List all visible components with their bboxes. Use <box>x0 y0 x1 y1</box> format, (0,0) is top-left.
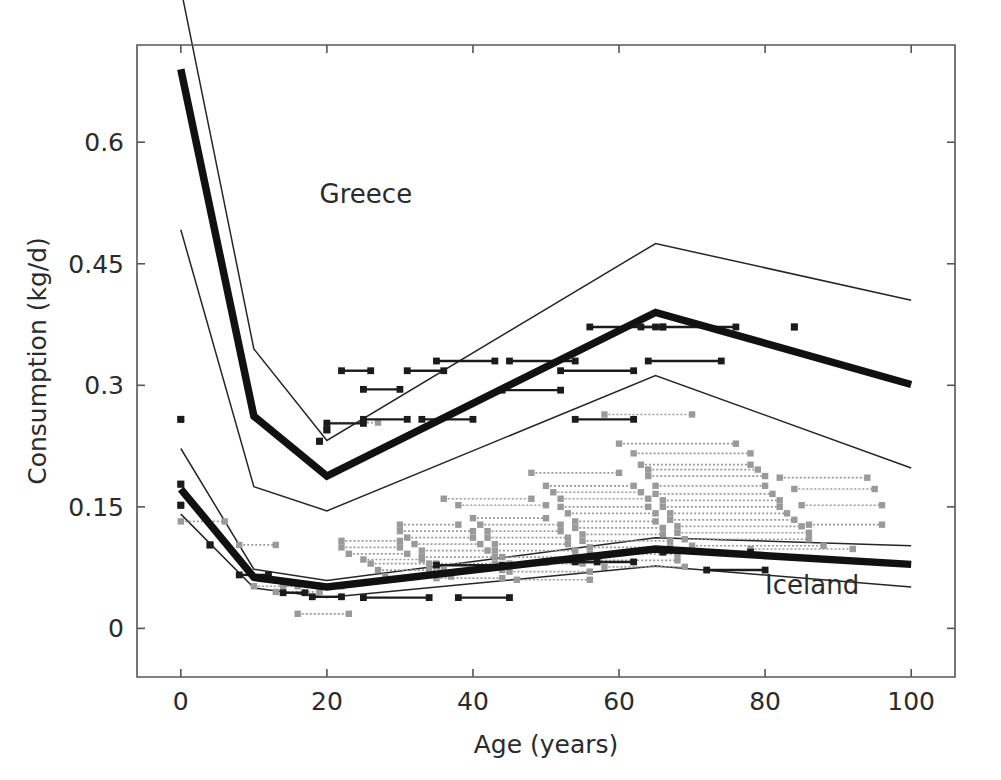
iceland-observation-marker <box>426 560 432 566</box>
iceland-observation-marker <box>667 510 673 516</box>
greece-observation-marker <box>360 594 367 601</box>
greece-observation-marker <box>426 594 433 601</box>
greece-observation-marker <box>572 358 579 365</box>
iceland-observation-marker <box>455 502 461 508</box>
greece-observation-marker <box>397 386 404 393</box>
greece-observation-marker <box>645 358 652 365</box>
greece-observation-marker <box>302 589 309 596</box>
greece-observation-marker <box>455 594 462 601</box>
iceland-observation-marker <box>492 547 498 553</box>
iceland-observation-marker <box>733 440 739 446</box>
iceland-observation-marker <box>806 536 812 542</box>
iceland-observation-marker <box>514 577 520 583</box>
iceland-observation-marker <box>455 521 461 527</box>
iceland-observation-marker <box>572 525 578 531</box>
iceland-observation-marker <box>652 483 658 489</box>
greece-observation-marker <box>367 367 374 374</box>
iceland-observation-marker <box>557 504 563 510</box>
iceland-observation-marker <box>411 541 417 547</box>
iceland-observation-marker <box>294 611 300 617</box>
iceland-observation-marker <box>879 521 885 527</box>
iceland-observation-marker <box>572 547 578 553</box>
greece-observation-marker <box>506 594 513 601</box>
iceland-observation-marker <box>777 474 783 480</box>
greece-observation-marker <box>316 438 323 445</box>
x-axis-title: Age (years) <box>474 730 619 759</box>
greece-observation-marker <box>630 416 637 423</box>
greece-observation-marker <box>177 481 184 488</box>
iceland-observation-marker <box>762 473 768 479</box>
greece-observation-marker <box>718 358 725 365</box>
iceland-observation-marker <box>601 564 607 570</box>
iceland-observation-marker <box>579 538 585 544</box>
iceland-observation-marker <box>543 515 549 521</box>
iceland-observation-marker <box>470 528 476 534</box>
iceland-observation-marker <box>660 497 666 503</box>
iceland-observation-marker <box>798 502 804 508</box>
iceland-observation-marker <box>499 575 505 581</box>
iceland-observation-marker <box>652 491 658 497</box>
iceland-observation-marker <box>652 518 658 524</box>
iceland-observation-marker <box>346 551 352 557</box>
greece-observation-marker <box>506 358 513 365</box>
iceland-observation-marker <box>645 504 651 510</box>
iceland-observation-marker <box>667 538 673 544</box>
consumption-vs-age-chart: 02040608010000.150.30.450.6 GreeceIcelan… <box>0 0 1001 780</box>
greece-observation-marker <box>280 589 287 596</box>
iceland-observation-marker <box>565 534 571 540</box>
iceland-observation-marker <box>499 554 505 560</box>
greece-observation-marker <box>732 324 739 331</box>
iceland-observation-marker <box>630 450 636 456</box>
iceland-observation-marker <box>397 528 403 534</box>
iceland-observation-marker <box>251 583 257 589</box>
iceland-observation-marker <box>645 496 651 502</box>
iceland-observation-marker <box>747 450 753 456</box>
iceland-observation-marker <box>682 564 688 570</box>
iceland-observation-marker <box>397 544 403 550</box>
iceland-observation-marker <box>616 470 622 476</box>
iceland-observation-marker <box>798 523 804 529</box>
iceland-observation-marker <box>660 531 666 537</box>
iceland-observation-marker <box>689 411 695 417</box>
iceland-observation-marker <box>419 547 425 553</box>
x-tick-label: 60 <box>603 687 635 716</box>
iceland-observation-marker <box>660 525 666 531</box>
greece-observation-marker <box>418 416 425 423</box>
greece-observation-marker <box>433 358 440 365</box>
iceland-observation-marker <box>630 483 636 489</box>
x-tick-label: 40 <box>457 687 489 716</box>
iceland-observation-marker <box>484 534 490 540</box>
iceland-observation-marker <box>579 531 585 537</box>
greece-observation-marker <box>404 367 411 374</box>
iceland-observation-marker <box>871 486 877 492</box>
greece-observation-marker <box>177 502 184 509</box>
y-axis-title: Consumption (kg/d) <box>23 237 52 485</box>
iceland-observation-marker <box>543 502 549 508</box>
iceland-observation-marker <box>404 534 410 540</box>
iceland-observation-marker <box>565 541 571 547</box>
iceland-observation-marker <box>879 502 885 508</box>
y-tick-label: 0 <box>108 614 124 643</box>
x-tick-label: 80 <box>749 687 781 716</box>
iceland-observation-marker <box>441 496 447 502</box>
iceland-observation-marker <box>550 489 556 495</box>
iceland-observation-marker <box>762 483 768 489</box>
x-tick-label: 0 <box>173 687 189 716</box>
iceland-observation-marker <box>273 542 279 548</box>
iceland-observation-marker <box>587 544 593 550</box>
iceland-observation-marker <box>777 497 783 503</box>
greece-observation-marker <box>703 567 710 574</box>
greece-observation-marker <box>652 324 659 331</box>
y-tick-label: 0.15 <box>68 493 124 522</box>
iceland-observation-marker <box>492 541 498 547</box>
iceland-observation-marker <box>557 528 563 534</box>
greece-observation-marker <box>791 324 798 331</box>
iceland-observation-marker <box>565 510 571 516</box>
annotation-greece: Greece <box>320 179 413 209</box>
iceland-observation-marker <box>806 530 812 536</box>
iceland-observation-marker <box>616 440 622 446</box>
iceland-observation-marker <box>777 504 783 510</box>
iceland-observation-marker <box>652 510 658 516</box>
greece-observation-marker <box>572 416 579 423</box>
iceland-observation-marker <box>360 556 366 562</box>
